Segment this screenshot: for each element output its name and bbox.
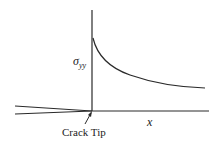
x-axis-label: x <box>147 115 152 130</box>
y-axis-label: σyy <box>73 54 86 70</box>
stress-curve <box>93 38 205 88</box>
crack-tip-label: Crack Tip <box>62 126 106 138</box>
crack-upper-face <box>15 106 92 111</box>
sigma-subscript: yy <box>79 61 86 70</box>
arrow-head-icon <box>88 111 92 117</box>
crack-lower-face <box>15 111 92 114</box>
crack-tip-diagram <box>0 0 219 145</box>
